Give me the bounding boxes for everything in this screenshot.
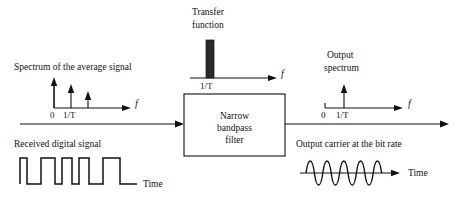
filter-label-line1: Narrow bbox=[220, 111, 249, 121]
transfer-function-title-line2: function bbox=[192, 20, 224, 30]
spectrum-average-x-axis-arrowhead bbox=[122, 105, 131, 111]
output-spectrum-f-label: f bbox=[408, 98, 412, 109]
spectral-line-dc bbox=[51, 77, 57, 108]
received-digital-signal-waveform bbox=[20, 158, 137, 184]
output-carrier-chart: Output carrier at the bit rate Time bbox=[296, 139, 428, 185]
spectral-line-1overT bbox=[68, 84, 74, 108]
diagram-canvas: Narrow bandpass filter Spectrum of the a… bbox=[0, 0, 458, 202]
spectrum-average-signal-chart: Spectrum of the average signal f bbox=[14, 62, 139, 120]
narrow-bandpass-filter-box: Narrow bandpass filter bbox=[184, 94, 285, 156]
spectrum-average-signal-title: Spectrum of the average signal bbox=[14, 62, 132, 72]
output-spectrum-title-line2: spectrum bbox=[324, 63, 359, 73]
arrowhead-output bbox=[440, 121, 449, 128]
received-digital-signal-chart: Received digital signal Time bbox=[14, 139, 163, 189]
spectral-line-2overT bbox=[85, 91, 91, 108]
main-signal-line-right bbox=[285, 121, 449, 128]
transfer-function-f-label: f bbox=[281, 68, 285, 79]
output-carrier-time-label: Time bbox=[408, 168, 428, 178]
received-digital-signal-time-label: Time bbox=[143, 179, 163, 189]
output-spectral-line-1overT bbox=[341, 84, 347, 108]
output-spectrum-x-axis-arrowhead bbox=[394, 105, 403, 111]
spectrum-average-tick-zero: 0 bbox=[50, 110, 55, 120]
output-carrier-time-arrowhead bbox=[391, 170, 400, 176]
spectrum-average-f-label: f bbox=[135, 98, 139, 109]
spectrum-average-tick-1overT: 1/T bbox=[63, 110, 76, 120]
output-spectrum-tick-1overT: 1/T bbox=[336, 110, 349, 120]
output-spectrum-tick-zero: 0 bbox=[321, 110, 326, 120]
received-digital-signal-title: Received digital signal bbox=[14, 139, 101, 149]
transfer-function-tick-1overT: 1/T bbox=[200, 81, 213, 91]
output-spectrum-title-line1: Output bbox=[327, 50, 354, 60]
arrowhead-into-filter bbox=[175, 121, 184, 128]
transfer-function-passband-bar bbox=[206, 40, 214, 78]
output-spectrum-chart: Output spectrum f 0 1/T bbox=[321, 50, 412, 120]
transfer-function-chart: Transfer function f 1/T bbox=[190, 7, 285, 91]
output-carrier-title: Output carrier at the bit rate bbox=[296, 139, 402, 149]
filter-label-line3: filter bbox=[225, 135, 244, 145]
transfer-function-x-axis-arrowhead bbox=[268, 75, 277, 81]
signal-flow-diagram: Narrow bandpass filter Spectrum of the a… bbox=[0, 0, 458, 202]
filter-label-line2: bandpass bbox=[217, 123, 252, 133]
main-signal-line-left bbox=[20, 121, 184, 128]
transfer-function-title-line1: Transfer bbox=[192, 7, 225, 17]
